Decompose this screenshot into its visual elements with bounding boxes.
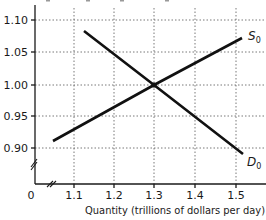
supply-curve-s0 xyxy=(53,38,242,141)
x-tick-labels: 0 1.1 1.2 1.3 1.4 1.5 xyxy=(28,189,245,202)
svg-text:1.5: 1.5 xyxy=(227,189,245,202)
svg-text:1.1: 1.1 xyxy=(65,189,83,202)
gridlines xyxy=(35,8,266,184)
supply-label: S0 xyxy=(248,29,261,45)
origin-label: 0 xyxy=(28,189,35,202)
svg-text:1.05: 1.05 xyxy=(4,46,29,59)
svg-text:1.3: 1.3 xyxy=(145,189,163,202)
svg-text:1.4: 1.4 xyxy=(186,189,204,202)
y-axis-title-cropped xyxy=(46,0,169,2)
svg-text:1.00: 1.00 xyxy=(4,79,29,92)
svg-text:0.90: 0.90 xyxy=(4,142,29,155)
svg-text:1.2: 1.2 xyxy=(105,189,123,202)
demand-label: D0 xyxy=(247,155,261,171)
chart: S0 D0 1.10 1.05 1.00 0.95 0.90 0 1.1 1.2… xyxy=(0,0,266,220)
svg-text:1.10: 1.10 xyxy=(4,14,29,27)
axes xyxy=(31,5,266,188)
svg-text:0.95: 0.95 xyxy=(4,110,29,123)
y-tick-labels: 1.10 1.05 1.00 0.95 0.90 xyxy=(4,14,29,155)
equilibrium-point xyxy=(151,82,156,87)
x-axis-title: Quantity (trillions of dollars per day) xyxy=(85,204,265,217)
